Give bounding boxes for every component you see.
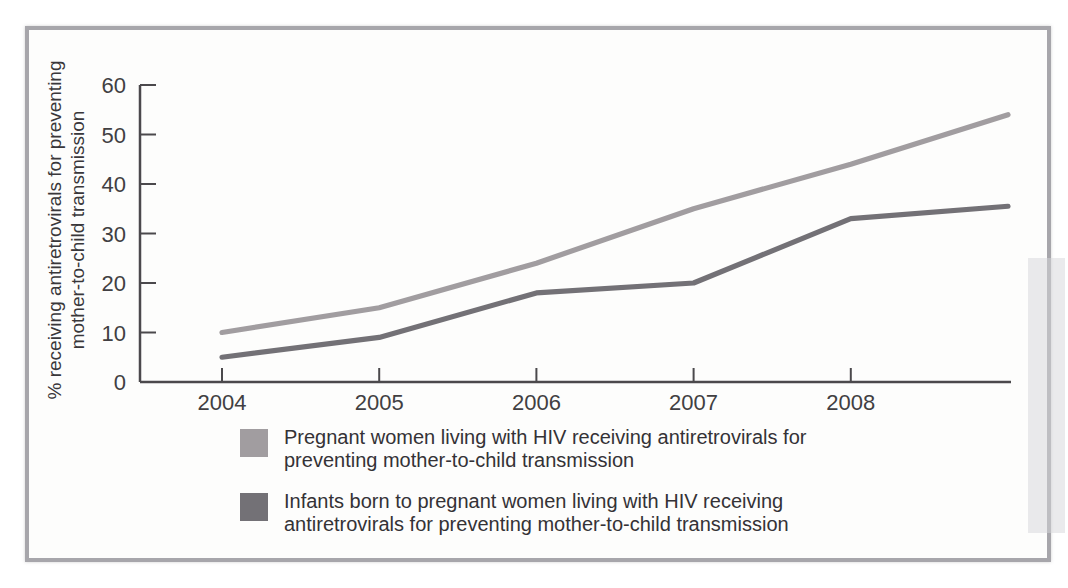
- y-axis-title-line-1: % receiving antiretrovirals for preventi…: [43, 45, 66, 415]
- y-tick-label: 40: [102, 172, 126, 197]
- x-tick-label: 2004: [198, 390, 247, 415]
- x-tick-label: 2007: [669, 390, 718, 415]
- y-axis-title-line-2: mother-to-child transmission: [66, 45, 89, 415]
- legend-item-pregnant-women: Pregnant women living with HIV receiving…: [240, 426, 844, 472]
- legend-swatch-pregnant-women: [240, 429, 268, 457]
- legend-swatch-infants: [240, 493, 268, 521]
- x-tick-label: 2005: [355, 390, 404, 415]
- legend-label-pregnant-women-line-2: preventing mother-to-child transmission: [284, 449, 844, 472]
- y-tick-label: 60: [102, 73, 126, 98]
- legend-label-pregnant-women: Pregnant women living with HIV receiving…: [284, 426, 844, 472]
- scan-artifact-band: [1028, 258, 1065, 533]
- y-tick-label: 30: [102, 222, 126, 247]
- series-line-pregnant-women: [222, 115, 1008, 333]
- series-line-infants: [222, 206, 1008, 357]
- legend-label-infants-line-2: antiretrovirals for preventing mother-to…: [284, 513, 844, 536]
- y-tick-label: 50: [102, 123, 126, 148]
- x-tick-label: 2006: [512, 390, 561, 415]
- x-tick-label: 2008: [826, 390, 875, 415]
- y-tick-label: 0: [114, 370, 126, 395]
- legend-label-infants: Infants born to pregnant women living wi…: [284, 490, 844, 536]
- legend-label-infants-line-1: Infants born to pregnant women living wi…: [284, 490, 844, 513]
- y-tick-label: 20: [102, 271, 126, 296]
- legend: Pregnant women living with HIV receiving…: [240, 426, 844, 554]
- legend-item-infants: Infants born to pregnant women living wi…: [240, 490, 844, 536]
- legend-label-pregnant-women-line-1: Pregnant women living with HIV receiving…: [284, 426, 844, 449]
- figure-page: 010203040506020042005200620072008 % rece…: [0, 0, 1068, 588]
- y-axis-title: % receiving antiretrovirals for preventi…: [43, 45, 89, 415]
- y-tick-label: 10: [102, 321, 126, 346]
